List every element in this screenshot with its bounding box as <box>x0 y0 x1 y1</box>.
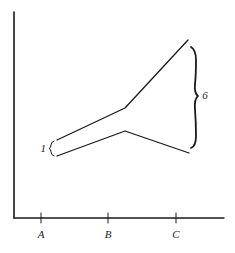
right-brace-icon <box>191 47 198 148</box>
left-brace-icon <box>49 141 54 156</box>
left-gap-label: 1 <box>41 142 47 154</box>
diagram: A B C 1 6 <box>0 0 235 253</box>
tick-label-b: B <box>105 228 112 240</box>
right-gap-label: 6 <box>202 89 208 101</box>
tick-label-c: C <box>172 228 180 240</box>
tick-label-a: A <box>37 228 45 240</box>
lower-line <box>57 131 189 156</box>
upper-line <box>57 40 188 140</box>
